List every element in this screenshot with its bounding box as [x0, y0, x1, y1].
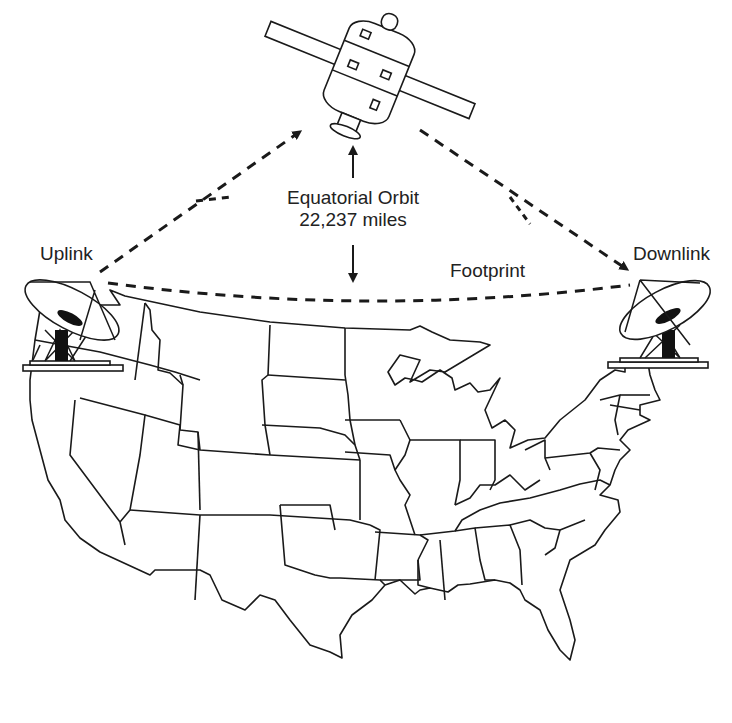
diagram-canvas [0, 0, 732, 723]
downlink-label: Downlink [633, 243, 710, 265]
footprint-label: Footprint [450, 260, 525, 282]
orbit-label-line1: Equatorial Orbit [280, 187, 426, 209]
orbit-label: Equatorial Orbit 22,237 miles [280, 187, 426, 231]
downlink-dish-icon [608, 269, 719, 368]
uplink-beam [100, 133, 298, 272]
us-map [30, 290, 660, 660]
footprint-line [108, 283, 630, 301]
downlink-beam [420, 130, 625, 268]
uplink-label: Uplink [40, 243, 93, 265]
satellite-icon [241, 0, 494, 177]
orbit-label-line2: 22,237 miles [280, 209, 426, 231]
uplink-beam-break [196, 197, 230, 201]
